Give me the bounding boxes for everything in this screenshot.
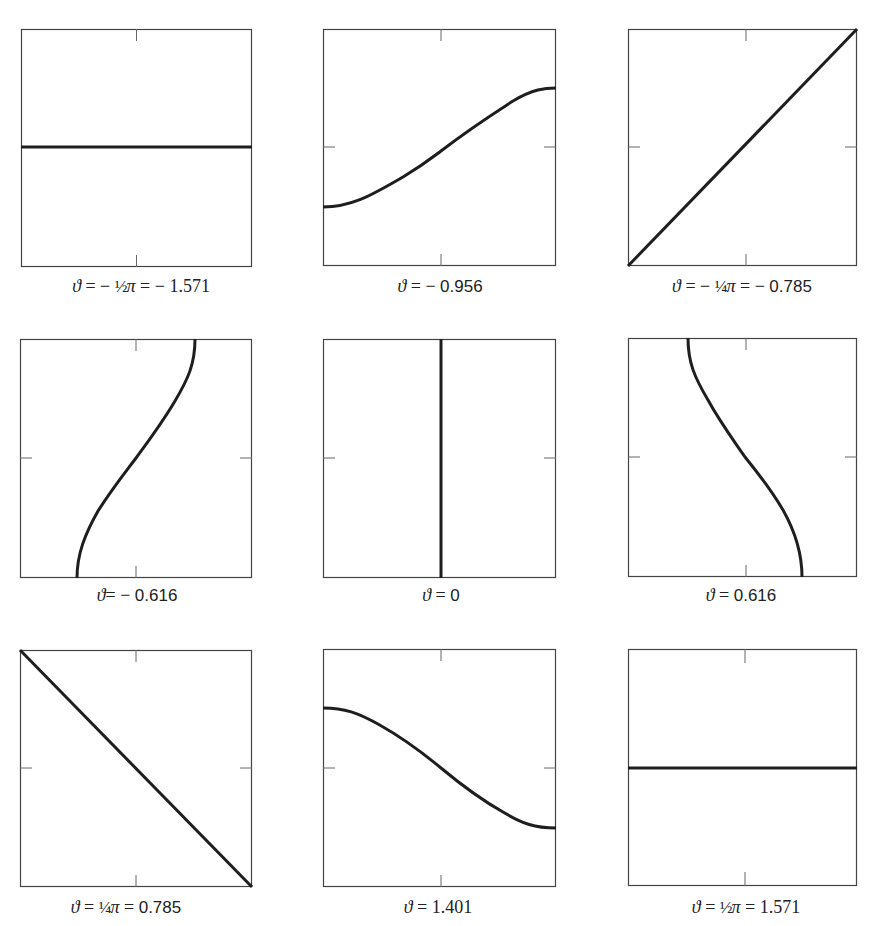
plot-frame bbox=[628, 338, 857, 577]
curve bbox=[323, 88, 556, 207]
panel-label: ϑ = ¼π = 0.785 bbox=[71, 897, 181, 918]
plot-frame bbox=[323, 649, 556, 887]
panel-theta-zero bbox=[323, 339, 556, 578]
panel-label: ϑ= − 0.616 bbox=[97, 585, 178, 606]
panel-theta-neg-quarter-pi bbox=[628, 29, 857, 266]
plot-frame bbox=[21, 29, 252, 267]
panel-theta-pos-0616 bbox=[628, 338, 857, 577]
panel-label: ϑ = − ¼π = − 0.785 bbox=[672, 276, 812, 297]
plot-frame bbox=[628, 29, 857, 266]
plot-frame bbox=[323, 339, 556, 578]
curve bbox=[628, 29, 857, 266]
plot-frame bbox=[323, 29, 556, 266]
curve bbox=[20, 650, 252, 887]
curve bbox=[688, 338, 802, 577]
panel-label: ϑ = 0 bbox=[422, 585, 459, 606]
plot-frame bbox=[628, 649, 857, 886]
plot-frame bbox=[20, 650, 252, 887]
panel-theta-pos-quarter-pi bbox=[20, 650, 252, 887]
plot-frame bbox=[20, 339, 252, 578]
panel-theta-pos-half-pi bbox=[628, 649, 857, 886]
panel-label: ϑ = ½π = 1.571 bbox=[692, 897, 800, 918]
panel-label: ϑ = − ½π = − 1.571 bbox=[72, 276, 210, 297]
panel-theta-neg-0956 bbox=[323, 29, 556, 266]
panel-label: ϑ = − 0.956 bbox=[397, 276, 482, 297]
panel-theta-neg-0616 bbox=[20, 339, 252, 578]
panel-theta-neg-half-pi bbox=[21, 29, 252, 267]
curve bbox=[323, 708, 556, 828]
curve bbox=[77, 339, 195, 578]
panel-label: ϑ = 0.616 bbox=[706, 585, 777, 606]
panel-theta-pos-1401 bbox=[323, 649, 556, 887]
panel-label: ϑ = 1.401 bbox=[404, 897, 473, 917]
